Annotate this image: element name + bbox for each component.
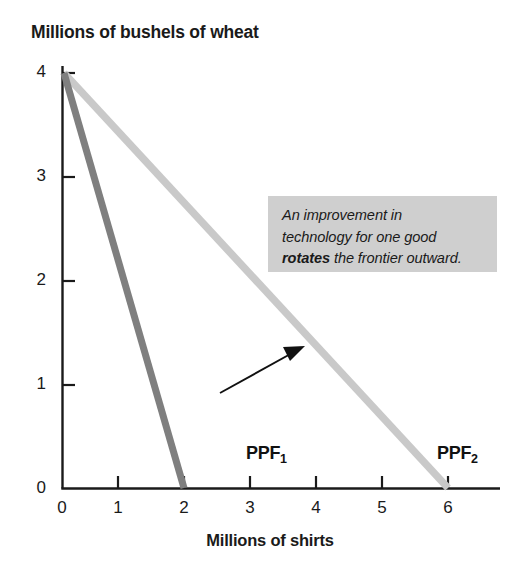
rotation-arrow-icon bbox=[220, 346, 305, 393]
y-axis-ticks bbox=[63, 73, 76, 385]
y-tick-label-2: 2 bbox=[20, 270, 46, 290]
x-tick-label-5: 5 bbox=[367, 498, 397, 518]
x-tick-label-0: 0 bbox=[47, 498, 77, 518]
y-tick-label-3: 3 bbox=[20, 166, 46, 186]
callout-line-1: An improvement in bbox=[282, 207, 402, 223]
y-tick-label-4: 4 bbox=[20, 62, 46, 82]
x-tick-label-6: 6 bbox=[433, 498, 463, 518]
x-tick-label-1: 1 bbox=[103, 498, 133, 518]
ppf1-label-text: PPF bbox=[246, 443, 280, 463]
x-tick-label-2: 2 bbox=[169, 498, 199, 518]
ppf2-label: PPF2 bbox=[437, 443, 478, 464]
x-tick-label-4: 4 bbox=[301, 498, 331, 518]
callout-line-2: technology for one good bbox=[282, 229, 436, 245]
annotation-callout-text: An improvement in technology for one goo… bbox=[282, 205, 497, 270]
x-axis-title: Millions of shirts bbox=[24, 531, 516, 550]
annotation-callout-box: An improvement in technology for one goo… bbox=[268, 196, 497, 272]
y-tick-label-0: 0 bbox=[20, 478, 46, 498]
y-tick-label-1: 1 bbox=[20, 374, 46, 394]
ppf-chart-figure: Millions of bushels of wheat Millions of… bbox=[0, 0, 516, 572]
ppf1-label-subscript: 1 bbox=[280, 452, 287, 466]
callout-line-3-rest: the frontier outward. bbox=[330, 250, 462, 266]
y-axis-title: Millions of bushels of wheat bbox=[31, 22, 259, 43]
callout-bold-word: rotates bbox=[282, 250, 330, 266]
ppf2-label-subscript: 2 bbox=[471, 452, 478, 466]
chart-plot-area bbox=[0, 0, 516, 572]
x-axis-ticks bbox=[118, 476, 448, 489]
x-tick-label-3: 3 bbox=[235, 498, 265, 518]
ppf2-label-text: PPF bbox=[437, 443, 471, 463]
ppf1-label: PPF1 bbox=[246, 443, 287, 464]
